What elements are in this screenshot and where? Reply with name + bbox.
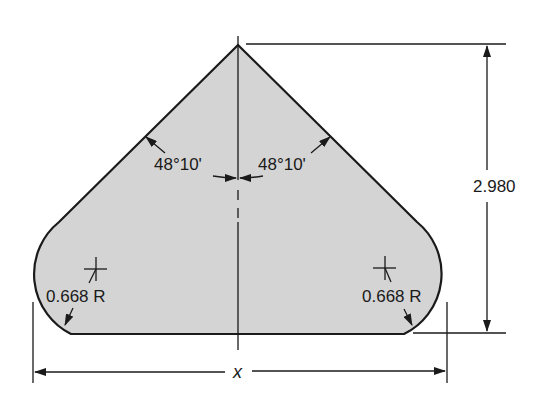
angle-label-right: 48°10' — [258, 155, 306, 174]
radius-label-right: 0.668 R — [362, 287, 422, 306]
drawing-canvas: 2.980 x 48°10' 48°10' 0.668 R 0.668 R — [0, 0, 558, 410]
width-label: x — [232, 362, 243, 382]
radius-label-left: 0.668 R — [46, 287, 106, 306]
height-label: 2.980 — [473, 177, 516, 196]
angle-label-left: 48°10' — [154, 155, 202, 174]
